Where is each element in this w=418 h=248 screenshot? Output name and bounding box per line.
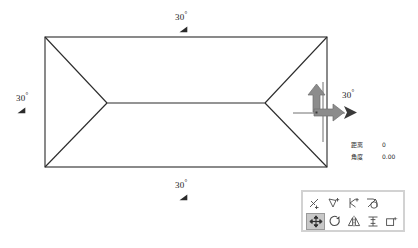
fillet-icon — [365, 196, 380, 210]
toolbar-button-fillet[interactable] — [363, 195, 382, 212]
array-icon — [385, 215, 399, 228]
degree-symbol-bottom: ° — [184, 178, 187, 186]
scale-icon — [366, 215, 380, 228]
angle-label-right: 30° — [342, 90, 354, 100]
hip-line-bottom-left — [45, 103, 107, 167]
app-canvas: 30° 30° 30° 30° 距离 0 角度 0.00 — [0, 0, 418, 248]
degree-symbol-right: ° — [351, 88, 354, 96]
coordinate-readout: 距离 0 角度 0.00 — [351, 140, 413, 164]
ucs-origin-marker — [316, 112, 318, 114]
roof-outline-rect — [45, 37, 327, 167]
toolbar-row-1 — [305, 194, 401, 212]
toolbar-button-array[interactable] — [382, 213, 401, 230]
toolbar-button-move[interactable] — [306, 213, 325, 230]
mirror-icon — [347, 215, 361, 228]
angle-mark-icon-left — [17, 107, 26, 114]
toolbar-button-mirror[interactable] — [344, 213, 363, 230]
rotate-icon — [328, 215, 342, 228]
erase-icon — [308, 196, 323, 210]
angle-label-bottom: 30° — [175, 180, 187, 190]
angle-mark-icon-bottom — [179, 194, 188, 201]
toolbar-button-copy[interactable] — [325, 195, 344, 212]
toolbar-button-trim[interactable] — [344, 195, 363, 212]
readout-label-angle: 角度 — [351, 152, 377, 161]
roof-hip-lines — [45, 37, 327, 167]
angle-mark-icon-top — [179, 26, 188, 33]
toolbar-row-2 — [305, 212, 401, 230]
hip-line-top-left — [45, 37, 107, 103]
degree-symbol-left: ° — [25, 91, 28, 99]
toolbar-button-erase[interactable] — [306, 195, 325, 212]
move-icon — [309, 215, 323, 228]
degree-symbol-top: ° — [184, 10, 187, 18]
readout-value-distance: 0 — [377, 141, 413, 148]
toolbar-button-rotate[interactable] — [325, 213, 344, 230]
angle-label-left: 30° — [16, 93, 28, 103]
trim-icon — [346, 196, 361, 210]
toolbar-button-scale[interactable] — [363, 213, 382, 230]
readout-value-angle: 0.00 — [377, 153, 413, 160]
readout-row-angle: 角度 0.00 — [351, 152, 413, 164]
readout-label-distance: 距离 — [351, 140, 377, 149]
copy-icon — [327, 196, 342, 210]
arrow-up-icon — [308, 84, 325, 112]
readout-row-distance: 距离 0 — [351, 140, 413, 152]
arrow-pointer-icon — [344, 106, 357, 119]
modify-toolbar[interactable] — [301, 190, 405, 232]
angle-label-top: 30° — [175, 12, 187, 22]
roof-outline — [45, 37, 327, 167]
